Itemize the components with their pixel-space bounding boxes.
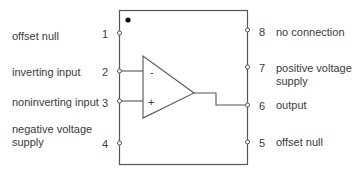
ic-package-outline	[120, 11, 248, 165]
pin-7-marker	[246, 65, 250, 69]
pin1-orientation-dot	[125, 17, 130, 22]
pin-2-label: inverting input	[12, 66, 81, 78]
pin-6-marker	[246, 103, 250, 107]
pin-4-label-line1: negative voltage	[12, 123, 92, 135]
pin-4-number: 4	[102, 138, 108, 150]
pin-5-number: 5	[259, 137, 265, 149]
pin-7-label-line2: supply	[276, 75, 308, 87]
pin-3-marker	[118, 99, 122, 103]
pin-8-marker	[246, 28, 250, 32]
pin-2-number: 2	[102, 66, 108, 78]
pin-5-marker	[246, 140, 250, 144]
pin-1-number: 1	[102, 28, 108, 40]
pin-6-label: output	[276, 99, 307, 111]
pin-1-label: offset null	[12, 30, 59, 42]
pin-8-label: no connection	[276, 26, 345, 38]
pin-2-marker	[118, 69, 122, 73]
pin-4-marker	[118, 141, 122, 145]
pin-4-label-line2: supply	[12, 136, 44, 148]
inverting-symbol: -	[150, 66, 154, 78]
pin-8-number: 8	[259, 26, 265, 38]
pin-5-label: offset null	[276, 136, 323, 148]
noninverting-symbol: +	[148, 96, 154, 108]
pin-7-number: 7	[259, 62, 265, 74]
pin-3-number: 3	[102, 97, 108, 109]
pin-1-marker	[118, 31, 122, 35]
pin-7-label-line1: positive voltage	[276, 62, 352, 74]
pin-3-label: noninverting input	[12, 96, 99, 108]
output-wire	[194, 93, 246, 105]
pin-6-number: 6	[259, 100, 265, 112]
